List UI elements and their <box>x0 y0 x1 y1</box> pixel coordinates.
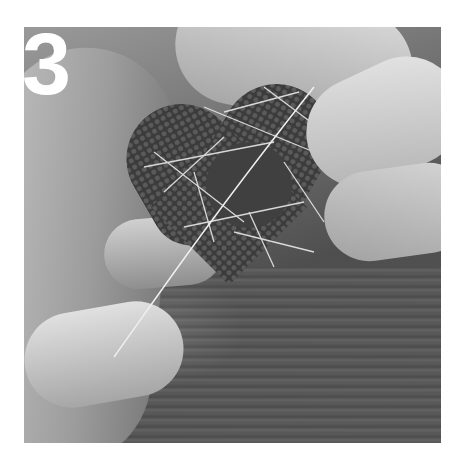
step-photo <box>24 27 441 443</box>
step-number: 3 <box>22 20 69 108</box>
main-thread <box>24 27 441 443</box>
